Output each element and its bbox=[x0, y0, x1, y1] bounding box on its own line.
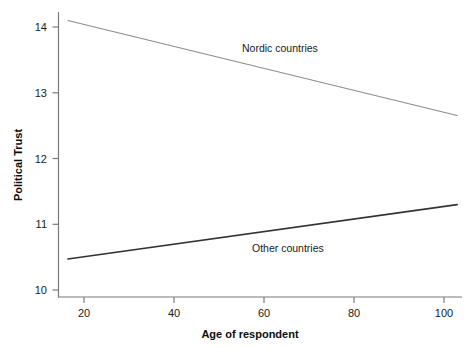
y-axis-ticks bbox=[53, 27, 59, 290]
y-axis-title: Political Trust bbox=[12, 129, 24, 201]
x-axis-title: Age of respondent bbox=[201, 328, 299, 340]
series-label-other-countries: Other countries bbox=[252, 242, 324, 254]
x-tick-label-60: 60 bbox=[258, 307, 270, 319]
y-tick-label-10: 10 bbox=[35, 284, 47, 296]
series-label-nordic-countries: Nordic countries bbox=[242, 42, 318, 54]
chart-container: 10 11 12 13 14 20 40 60 80 100 Age of re… bbox=[0, 0, 471, 348]
x-tick-label-80: 80 bbox=[348, 307, 360, 319]
y-tick-label-11: 11 bbox=[36, 218, 47, 230]
political-trust-line-chart: 10 11 12 13 14 20 40 60 80 100 Age of re… bbox=[0, 0, 471, 348]
x-tick-label-20: 20 bbox=[78, 307, 90, 319]
x-axis-ticks bbox=[84, 297, 444, 303]
y-tick-label-13: 13 bbox=[35, 87, 47, 99]
series-line-nordic-countries bbox=[68, 21, 457, 116]
y-tick-label-12: 12 bbox=[35, 153, 47, 165]
x-tick-label-40: 40 bbox=[168, 307, 180, 319]
y-tick-label-14: 14 bbox=[35, 21, 47, 33]
x-tick-label-100: 100 bbox=[435, 307, 453, 319]
